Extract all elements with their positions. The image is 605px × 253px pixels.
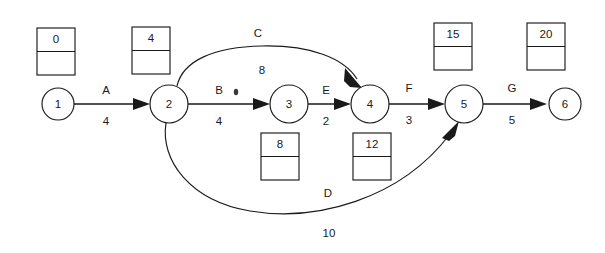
value-box-12-value: 12	[366, 138, 379, 150]
value-box-15[interactable]: 15	[434, 23, 472, 70]
edge-c-label: C	[254, 27, 262, 39]
edge-d-label: D	[324, 187, 332, 199]
edge-d-arrowhead-icon	[442, 121, 459, 141]
edge-g[interactable]: G 5	[483, 82, 547, 126]
edge-f-arrowhead-icon	[428, 98, 445, 110]
node-6-label: 6	[562, 98, 568, 110]
edge-e-label: E	[322, 84, 330, 96]
edge-c-curve	[177, 46, 357, 86]
diagram-canvas: A 4 B 4 E 2 F 3	[0, 0, 605, 253]
node-2-label: 2	[166, 98, 172, 110]
edge-b-weight: 4	[216, 115, 223, 127]
node-5[interactable]: 5	[445, 85, 483, 123]
edge-c-weight: 8	[259, 64, 265, 76]
edge-e-weight: 2	[323, 115, 329, 127]
value-box-4[interactable]: 4	[132, 27, 170, 74]
node-1-label: 1	[55, 98, 61, 110]
value-box-20-value: 20	[540, 28, 553, 40]
value-box-8-value: 8	[277, 138, 283, 150]
value-box-8[interactable]: 8	[261, 133, 299, 180]
value-box-15-value: 15	[447, 28, 460, 40]
edge-g-arrowhead-icon	[530, 98, 547, 110]
edge-d-curve	[165, 123, 450, 214]
node-4-label: 4	[367, 98, 374, 110]
edge-c-arrowhead-icon	[344, 68, 362, 88]
value-box-0[interactable]: 0	[37, 28, 75, 75]
node-3[interactable]: 3	[270, 85, 308, 123]
value-box-0-value: 0	[53, 33, 59, 45]
edge-g-label: G	[508, 82, 517, 94]
edge-f[interactable]: F 3	[389, 82, 445, 126]
edge-c[interactable]: C 8	[177, 27, 362, 88]
edge-f-label: F	[405, 82, 412, 94]
edge-d[interactable]: D 10	[165, 121, 459, 239]
scan-speck	[234, 89, 238, 95]
edge-a-weight: 4	[103, 115, 110, 127]
edge-g-weight: 5	[509, 114, 515, 126]
edge-e-arrowhead-icon	[334, 98, 351, 110]
node-5-label: 5	[461, 98, 467, 110]
edge-d-weight: 10	[323, 227, 336, 239]
edge-a[interactable]: A 4	[74, 84, 150, 127]
edge-a-label: A	[102, 84, 110, 96]
node-3-label: 3	[286, 98, 292, 110]
node-2[interactable]: 2	[150, 85, 188, 123]
node-4[interactable]: 4	[351, 85, 389, 123]
edge-b[interactable]: B 4	[188, 84, 270, 127]
value-box-4-value: 4	[148, 32, 155, 44]
edge-e[interactable]: E 2	[308, 84, 351, 127]
node-1[interactable]: 1	[42, 88, 74, 120]
edge-f-weight: 3	[406, 114, 412, 126]
value-box-20[interactable]: 20	[527, 23, 565, 70]
value-box-12[interactable]: 12	[353, 133, 391, 180]
edge-a-arrowhead-icon	[133, 98, 150, 110]
activity-network-diagram: A 4 B 4 E 2 F 3	[0, 0, 605, 253]
edge-b-arrowhead-icon	[253, 98, 270, 110]
edge-b-label: B	[215, 84, 223, 96]
node-6[interactable]: 6	[549, 88, 581, 120]
